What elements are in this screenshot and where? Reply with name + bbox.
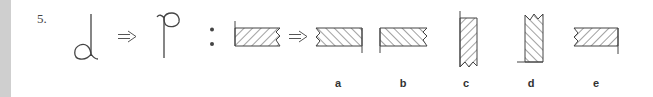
option-a-figure[interactable] [316,28,362,53]
transform-arrow-icon [118,31,136,42]
transform-arrow-icon [289,31,307,42]
option-e-label[interactable]: e [589,77,603,89]
analogy-separator-icon [210,28,214,47]
option-e-figure[interactable] [574,28,618,54]
option-b-figure[interactable] [380,28,427,53]
option-a-label[interactable]: a [331,77,345,89]
option-c-label[interactable]: c [459,77,473,89]
option-d-label[interactable]: d [524,77,538,89]
option-d-figure[interactable] [517,14,543,62]
analogy-diagram [0,0,653,97]
source-figure [235,21,280,46]
option-b-label[interactable]: b [396,77,410,89]
loop-top-stem-down-icon [157,13,179,58]
option-c-figure[interactable] [460,11,477,67]
loop-bottom-stem-up-icon [75,14,98,59]
